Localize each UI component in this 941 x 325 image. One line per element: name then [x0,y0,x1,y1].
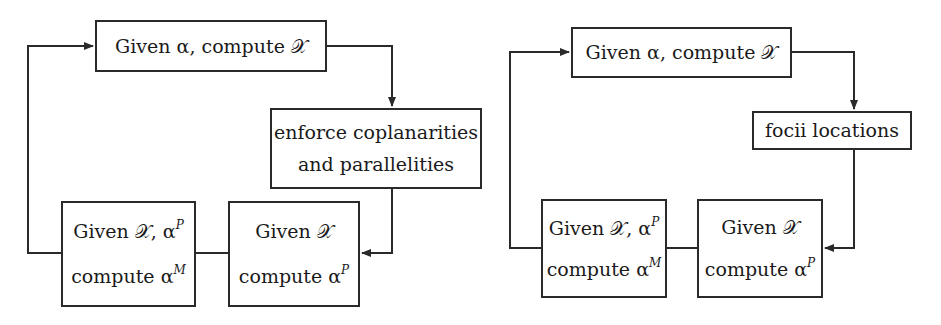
superscript: M [649,256,661,270]
right-bottom-right-box: Given 𝒳 compute αP [697,199,823,298]
superscript: P [651,215,659,229]
box-label-line-2: compute αM [547,259,662,279]
box-label: Given α, compute 𝒳 [115,37,307,56]
box-label: focii locations [765,121,899,140]
superscript: P [341,263,349,277]
superscript: M [173,263,185,277]
right-side-box: focii locations [752,111,912,150]
box-label-line-1: enforce coplanarities [274,123,478,142]
box-label-line-2: compute αP [239,266,349,286]
box-label-line-1: Given 𝒳, αP [549,218,660,238]
left-bottom-right-box: Given 𝒳 compute αP [228,201,360,307]
edge-top-to-side [792,52,854,109]
left-bottom-left-box: Given 𝒳, αP compute αM [61,201,196,307]
box-label-line-2: and parallelities [298,155,454,174]
box-label-line-1: Given 𝒳 [721,218,799,237]
box-label-line-1: Given 𝒳, αP [73,221,184,241]
box-label-line-2: compute αP [705,259,815,279]
left-side-box: enforce coplanarities and parallelities [270,108,482,189]
box-label-line-1: Given 𝒳 [255,222,333,241]
edge-top-to-side [327,46,392,106]
box-label: Given α, compute 𝒳 [586,43,778,62]
edge-side-to-bottom-right [825,150,854,248]
left-top-box: Given α, compute 𝒳 [95,20,327,72]
right-bottom-left-box: Given 𝒳, αP compute αM [541,199,667,298]
edge-side-to-bottom-right [362,189,392,253]
superscript: P [807,256,815,270]
box-label-line-2: compute αM [71,266,186,286]
superscript: P [176,218,184,232]
right-top-box: Given α, compute 𝒳 [571,27,792,78]
